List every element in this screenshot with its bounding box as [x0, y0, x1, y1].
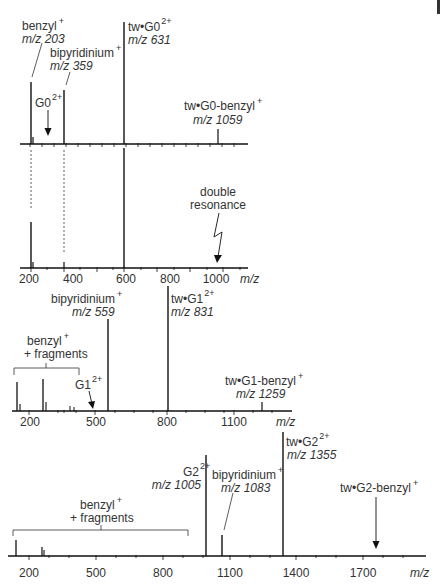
label-benzyl-mz: m/z 203	[22, 32, 65, 46]
label-fragments: + fragments	[24, 347, 88, 361]
label-twG1-benzyl: tw•G1-benzyl+	[225, 371, 303, 388]
label-fragments: + fragments	[70, 511, 134, 525]
label-resonance: resonance	[190, 198, 246, 212]
label-twG0: tw•G02+	[128, 16, 171, 34]
label-twG1: tw•G12+	[171, 288, 214, 306]
axis-label-mz: m/z	[276, 415, 295, 429]
label-twG0-mz: m/z 631	[128, 33, 171, 47]
leader-bipyridinium	[224, 493, 233, 530]
bracket-fragments	[14, 368, 79, 375]
tick-label: 800	[153, 566, 173, 580]
arrow-head-icon	[45, 128, 52, 136]
arrow-head-icon	[214, 255, 222, 263]
tick-label: 1100	[221, 415, 247, 429]
label-G1: G12+	[75, 374, 102, 392]
tick-label: 800	[157, 415, 177, 429]
leader-bipyridinium	[66, 72, 70, 85]
label-G0: G02+	[35, 92, 62, 110]
panel-4-spectrum: tw•G22+ m/z 1355 G22+ m/z 1005 bipyridin…	[8, 431, 429, 580]
label-twG2: tw•G22+	[286, 431, 329, 449]
label-bipyridinium-mz: m/z 359	[50, 59, 93, 73]
mass-spectra-figure: benzyl+ m/z 203 bipyridinium+ m/z 359 tw…	[0, 0, 440, 588]
leader-benzyl	[32, 43, 42, 77]
panel-1-spectrum: benzyl+ m/z 203 bipyridinium+ m/z 359 tw…	[20, 16, 262, 147]
label-twG2-benzyl: tw•G2-benzyl+	[340, 478, 418, 495]
label-double: double	[200, 185, 236, 199]
label-benzyl: benzyl+	[27, 331, 69, 348]
tick-label: 200	[20, 415, 40, 429]
tick-label: 600	[116, 272, 136, 286]
tick-label: 1000	[203, 272, 230, 286]
panel-2-spectrum: double resonance 200 400 600 800 1000 m/…	[19, 148, 259, 286]
label-twG0-benzyl-mz: m/z 1059	[193, 113, 243, 127]
label-bipyridinium: bipyridinium+	[50, 43, 121, 60]
tick-label: 500	[86, 415, 106, 429]
label-bipyridinium-mz: m/z 1083	[221, 481, 271, 495]
tick-label: 800	[160, 272, 180, 286]
label-bipyridinium: bipyridinium+	[212, 465, 283, 482]
tick-label: 200	[19, 566, 39, 580]
panel-3-spectrum: bipyridinium+ m/z 559 tw•G12+ m/z 831 be…	[12, 286, 303, 429]
axis-label-mz: m/z	[240, 272, 259, 286]
axis-label-mz: m/z	[410, 566, 429, 580]
zigzag-arrow	[214, 213, 222, 257]
tick-label: 500	[86, 566, 106, 580]
label-twG0-benzyl: tw•G0-benzyl+	[184, 96, 262, 113]
tick-label: 1100	[217, 566, 243, 580]
label-bipyridinium: bipyridinium+	[51, 289, 122, 306]
label-twG2-mz: m/z 1355	[287, 448, 337, 462]
label-benzyl: benzyl+	[80, 495, 122, 512]
tick-label: 1700	[350, 566, 377, 580]
tick-label: 400	[63, 272, 83, 286]
label-G2-mz: m/z 1005	[152, 478, 202, 492]
label-benzyl: benzyl+	[22, 16, 64, 33]
bracket-fragments	[13, 530, 188, 536]
label-twG1-mz: m/z 831	[171, 305, 214, 319]
arrow-head-icon	[373, 541, 380, 549]
label-twG1-benzyl-mz: m/z 1259	[236, 387, 286, 401]
label-bipyridinium-mz: m/z 559	[72, 305, 115, 319]
tick-label: 1400	[283, 566, 310, 580]
arrow-head-icon	[88, 401, 95, 409]
tick-label: 200	[19, 272, 39, 286]
